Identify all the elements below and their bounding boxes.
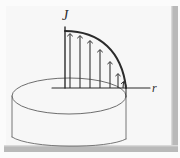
paper-tint [6, 6, 172, 148]
axis-label-r: r [152, 82, 157, 94]
figure-container: J r [0, 0, 180, 158]
diagram-canvas [0, 0, 180, 158]
axis-label-j: J [62, 9, 68, 23]
frame-right-bar-highlight [171, 6, 172, 152]
frame-bottom-shadow [0, 152, 180, 158]
frame-bottom-bar [4, 146, 178, 152]
frame-right-bar [172, 6, 178, 152]
field-arrow [123, 82, 124, 88]
